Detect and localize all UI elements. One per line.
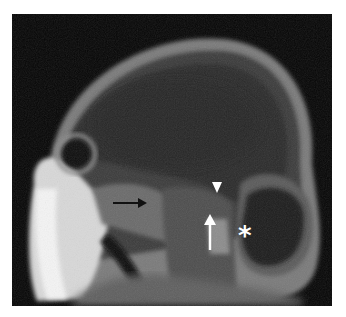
white-arrow-up-icon bbox=[204, 214, 216, 250]
white-arrowhead-down-icon bbox=[212, 182, 222, 194]
black-arrow-right-icon bbox=[112, 196, 148, 210]
mri-image: * bbox=[12, 14, 332, 306]
mri-scan-graphic bbox=[12, 14, 332, 306]
asterisk-marker: * bbox=[238, 223, 252, 249]
